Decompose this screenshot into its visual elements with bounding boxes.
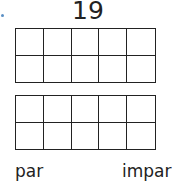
frame-cell[interactable] bbox=[99, 56, 127, 83]
ten-frame-2 bbox=[15, 95, 156, 150]
ten-frame-1 bbox=[15, 28, 156, 83]
frame-cell[interactable] bbox=[72, 123, 100, 150]
frame-cell[interactable] bbox=[99, 123, 127, 150]
frame-cell[interactable] bbox=[16, 123, 44, 150]
frame-cell[interactable] bbox=[72, 96, 100, 123]
frame-cell[interactable] bbox=[127, 56, 155, 83]
bullet-dot bbox=[1, 14, 4, 17]
frame-cell[interactable] bbox=[16, 29, 44, 56]
frame-cell[interactable] bbox=[44, 29, 72, 56]
number-label: 19 bbox=[72, 0, 102, 26]
frame-cell[interactable] bbox=[44, 56, 72, 83]
frame-cell[interactable] bbox=[44, 123, 72, 150]
frame-cell[interactable] bbox=[72, 29, 100, 56]
frame-cell[interactable] bbox=[44, 96, 72, 123]
option-par[interactable]: par bbox=[15, 160, 43, 182]
frame-cell[interactable] bbox=[99, 29, 127, 56]
frame-cell[interactable] bbox=[99, 96, 127, 123]
option-impar[interactable]: impar bbox=[122, 160, 171, 182]
frame-cell[interactable] bbox=[127, 29, 155, 56]
frame-cell[interactable] bbox=[127, 123, 155, 150]
frame-cell[interactable] bbox=[127, 96, 155, 123]
frame-cell[interactable] bbox=[16, 96, 44, 123]
frame-cell[interactable] bbox=[72, 56, 100, 83]
frame-cell[interactable] bbox=[16, 56, 44, 83]
